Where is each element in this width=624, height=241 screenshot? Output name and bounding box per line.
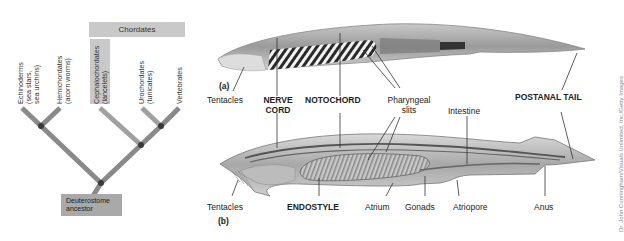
label-anus: Anus [534, 202, 553, 212]
label-atriopore: Atriopore [453, 202, 488, 212]
label-tentacles-b: Tentacles [207, 202, 243, 212]
photo-credit: Dr. John Cunningham/Visuals Unlimited, I… [618, 76, 624, 232]
label-atrium: Atrium [365, 202, 390, 212]
label-postanal-tail: POSTANAL TAIL [515, 92, 582, 102]
lancelet-photo-a [218, 24, 585, 71]
label-intestine: Intestine [448, 106, 480, 116]
label-pharyngeal-slits: Pharyngeal slits [385, 95, 433, 115]
panel-b-tag: (b) [218, 216, 229, 226]
label-notochord: NOTOCHORD [305, 95, 361, 105]
label-tentacles-a: Tentacles [207, 95, 243, 105]
label-nerve-cord: NERVE CORD [260, 95, 296, 115]
label-endostyle: ENDOSTYLE [287, 202, 339, 212]
label-gonads: Gonads [405, 202, 435, 212]
panel-a-tag: (a) [219, 81, 229, 91]
lancelet-diagram-b [220, 134, 595, 196]
